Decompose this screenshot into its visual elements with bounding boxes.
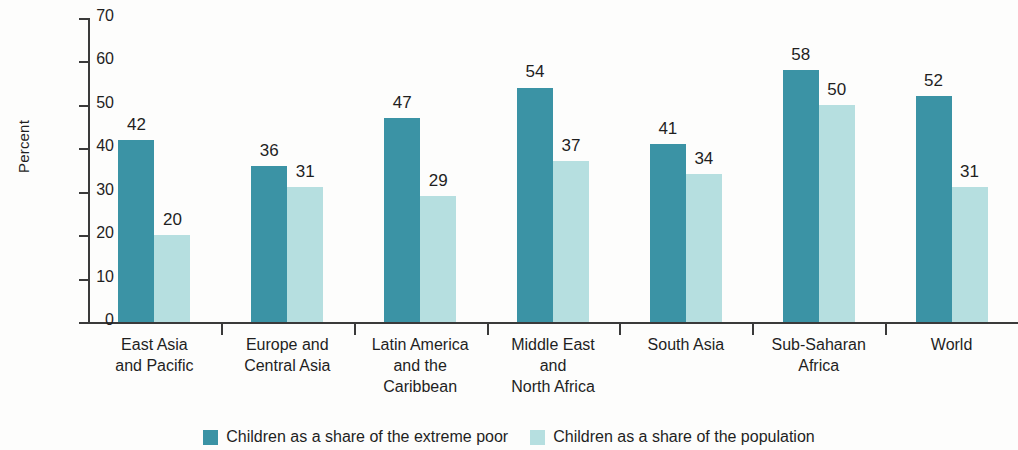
- legend-swatch-icon-0: [203, 430, 218, 445]
- bar-value-label-1-4: 34: [674, 149, 734, 169]
- category-label-6: World: [885, 334, 1018, 355]
- bar-0-0[interactable]: [118, 140, 154, 322]
- category-label-1: Europe andCentral Asia: [221, 334, 354, 376]
- bar-chart: Percent 010203040506070 4220363147295437…: [0, 0, 1018, 450]
- category-label-line: Caribbean: [354, 376, 487, 397]
- category-label-line: Sub-Saharan: [752, 334, 885, 355]
- category-label-3: Middle EastandNorth Africa: [487, 334, 620, 397]
- legend-swatch-icon-1: [530, 430, 545, 445]
- category-label-line: and: [487, 355, 620, 376]
- bar-1-0[interactable]: [154, 235, 190, 322]
- y-tick-label-0: 0: [74, 311, 114, 329]
- y-tick-label-60: 60: [74, 50, 114, 68]
- bar-value-label-0-0: 42: [106, 115, 166, 135]
- bar-1-2[interactable]: [420, 196, 456, 322]
- y-tick-label-20: 20: [74, 224, 114, 242]
- bar-1-6[interactable]: [952, 187, 988, 322]
- legend-item-0[interactable]: Children as a share of the extreme poor: [203, 428, 508, 446]
- bar-1-1[interactable]: [287, 187, 323, 322]
- bar-0-1[interactable]: [251, 166, 287, 322]
- category-label-line: Latin America: [354, 334, 487, 355]
- bar-value-label-0-3: 54: [505, 62, 565, 82]
- category-label-line: and the: [354, 355, 487, 376]
- bar-0-3[interactable]: [517, 88, 553, 323]
- bar-0-2[interactable]: [384, 118, 420, 322]
- bar-value-label-1-6: 31: [940, 162, 1000, 182]
- legend-label-1: Children as a share of the population: [553, 428, 815, 446]
- category-label-5: Sub-SaharanAfrica: [752, 334, 885, 376]
- bar-value-label-0-1: 36: [239, 141, 299, 161]
- x-axis-line: [88, 322, 1018, 324]
- plot-area: 010203040506070 422036314729543741345850…: [88, 18, 1018, 323]
- category-label-line: World: [885, 334, 1018, 355]
- bar-0-6[interactable]: [916, 96, 952, 322]
- category-label-line: and Pacific: [88, 355, 221, 376]
- bar-value-label-0-6: 52: [904, 71, 964, 91]
- bar-1-4[interactable]: [686, 174, 722, 322]
- y-tick-label-30: 30: [74, 181, 114, 199]
- legend-item-1[interactable]: Children as a share of the population: [530, 428, 815, 446]
- y-tick-label-10: 10: [74, 268, 114, 286]
- bar-1-3[interactable]: [553, 161, 589, 322]
- category-label-0: East Asiaand Pacific: [88, 334, 221, 376]
- bar-value-label-0-4: 41: [638, 119, 698, 139]
- bar-0-4[interactable]: [650, 144, 686, 322]
- bar-value-label-1-3: 37: [541, 136, 601, 156]
- bar-1-5[interactable]: [819, 105, 855, 322]
- x-axis-category-labels: East Asiaand PacificEurope andCentral As…: [88, 334, 1018, 419]
- y-tick-label-70: 70: [74, 7, 114, 25]
- y-tick-label-40: 40: [74, 137, 114, 155]
- category-label-line: South Asia: [619, 334, 752, 355]
- bar-value-label-0-5: 58: [771, 45, 831, 65]
- y-axis-title: Percent: [15, 102, 32, 192]
- category-label-line: Central Asia: [221, 355, 354, 376]
- chart-legend: Children as a share of the extreme poorC…: [0, 428, 1018, 446]
- category-label-line: East Asia: [88, 334, 221, 355]
- bar-value-label-0-2: 47: [372, 93, 432, 113]
- category-label-line: Middle East: [487, 334, 620, 355]
- category-label-4: South Asia: [619, 334, 752, 355]
- category-label-line: North Africa: [487, 376, 620, 397]
- bar-value-label-1-1: 31: [275, 162, 335, 182]
- bar-value-label-1-5: 50: [807, 80, 867, 100]
- category-label-2: Latin Americaand theCaribbean: [354, 334, 487, 397]
- bar-0-5[interactable]: [783, 70, 819, 322]
- legend-label-0: Children as a share of the extreme poor: [226, 428, 508, 446]
- bar-value-label-1-0: 20: [142, 210, 202, 230]
- category-label-line: Europe and: [221, 334, 354, 355]
- y-tick-label-50: 50: [74, 94, 114, 112]
- bar-value-label-1-2: 29: [408, 171, 468, 191]
- category-label-line: Africa: [752, 355, 885, 376]
